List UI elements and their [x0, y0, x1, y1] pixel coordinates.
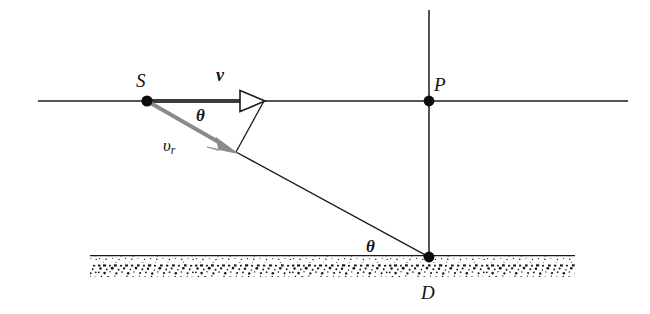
label-point-s: S — [136, 71, 146, 90]
velocity-vector-arrowhead — [240, 91, 265, 112]
ray-to-detector — [236, 152, 429, 257]
label-vr-subscript: r — [171, 144, 176, 157]
label-velocity-vector: v — [216, 66, 224, 84]
radial-velocity-vector-shaft — [147, 101, 222, 144]
label-point-d: D — [421, 283, 435, 302]
label-point-p: P — [434, 75, 446, 94]
point-P-dot — [424, 96, 435, 107]
ground-band — [90, 255, 575, 277]
point-S-dot — [141, 95, 152, 106]
physics-diagram: S P D v θ θ υr — [0, 0, 650, 314]
label-angle-theta-at-source: θ — [196, 107, 205, 124]
label-angle-theta-at-detector: θ — [366, 238, 375, 255]
label-radial-velocity-vector: υr — [163, 137, 175, 156]
point-D-dot — [424, 252, 435, 263]
diagram-canvas — [0, 0, 650, 314]
label-vr-base: υ — [163, 136, 171, 155]
